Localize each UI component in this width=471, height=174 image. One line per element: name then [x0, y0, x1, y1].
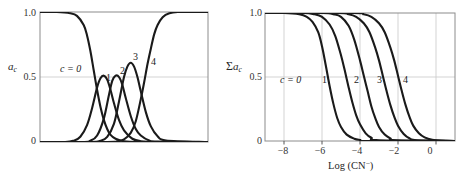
- plot-area-left: [0, 0, 236, 174]
- curve-label-left-0: c = 0: [60, 64, 81, 74]
- curve-label-right-2: 2: [354, 75, 359, 85]
- curve-label-right-1: 1: [322, 75, 327, 85]
- x-tick-right-4: −2: [374, 146, 414, 156]
- chart-panel-left: ac 1.0 0.5 0 c = 0 1 2 3 4: [0, 0, 236, 174]
- curve-label-right-0: c = 0: [280, 75, 301, 85]
- curve-label-right-4: 4: [403, 75, 408, 85]
- x-tick-right-1: −8: [263, 146, 303, 156]
- x-tick-right-3: −4: [337, 146, 377, 156]
- x-tick-right-5: 0: [410, 146, 450, 156]
- curve-label-left-3: 3: [133, 52, 138, 62]
- curve-left-2: [40, 75, 208, 142]
- curve-label-left-2: 2: [120, 66, 125, 76]
- chart-panel-right: Σac 1.0 0.5 0 −8 −6 −4 −2 0 Log (CN−) c …: [236, 0, 471, 174]
- curve-label-left-4: 4: [151, 57, 156, 67]
- x-axis-label-right-tail: ): [370, 160, 374, 171]
- x-axis-label-right: Log (CN−): [328, 160, 373, 172]
- curve-label-right-3: 3: [377, 75, 382, 85]
- x-axis-label-right-text: Log (CN: [328, 160, 366, 171]
- curve-label-left-1: 1: [106, 73, 111, 83]
- sigma-icon: Σ: [226, 59, 233, 73]
- curve-left-1: [40, 76, 208, 142]
- x-tick-right-2: −6: [300, 146, 340, 156]
- figure-container: ac 1.0 0.5 0 c = 0 1 2 3 4 Σac 1.0 0.5 0…: [0, 0, 471, 174]
